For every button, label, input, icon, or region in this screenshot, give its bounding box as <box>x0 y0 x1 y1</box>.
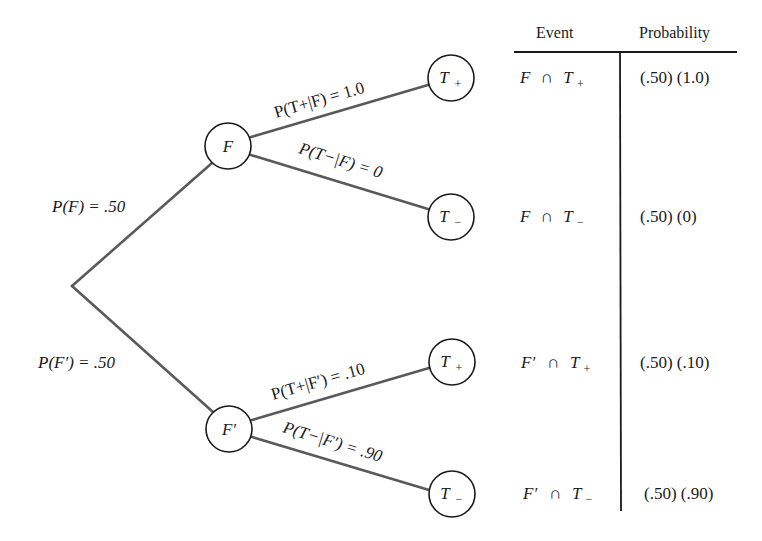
outcome-table: Event Probability F ∩ T + (.50) (1.0) F … <box>514 24 737 511</box>
branch-label-Tminus-given-F: P(T−|F) = 0 <box>296 138 385 182</box>
table-header-event: Event <box>536 24 574 41</box>
table-header-probability: Probability <box>639 24 710 42</box>
svg-text:T: T <box>440 352 451 371</box>
node-Fprime-Tplus: T + <box>429 339 475 385</box>
probability-tree-diagram: F F′ T + T − T + T − P(F) = .50 P(F′) = … <box>0 0 762 541</box>
row-probability: (.50) (.90) <box>644 484 713 503</box>
edge-root-to-Fprime <box>72 286 213 412</box>
branch-label-Tplus-given-Fprime: P(T+|F′) = .10 <box>269 359 367 404</box>
node-Fprime-label: F′ <box>221 420 236 439</box>
node-F-Tminus: T − <box>428 194 474 240</box>
branch-label-Tminus-given-Fprime: P(T−|F′) = .90 <box>280 417 385 466</box>
svg-text:−: − <box>456 492 463 506</box>
svg-text:T: T <box>440 484 451 503</box>
row-probability: (.50) (1.0) <box>640 68 709 87</box>
row-probability: (.50) (.10) <box>640 353 709 372</box>
svg-text:T: T <box>439 207 450 226</box>
node-Fprime-Tminus: T − <box>429 471 475 517</box>
svg-text:T: T <box>439 68 450 87</box>
branch-label-F: P(F) = .50 <box>51 197 126 216</box>
svg-text:−: − <box>455 215 462 229</box>
branch-label-Tplus-given-F: P(T+|F) = 1.0 <box>272 78 367 122</box>
svg-text:F ∩ T: F ∩ T + <box>519 68 584 91</box>
svg-text:F ∩ T: F ∩ T − <box>519 207 584 229</box>
svg-text:F′ ∩ T: F′ ∩ T − <box>522 484 593 506</box>
table-row: F′ ∩ T − (.50) (.90) <box>522 484 713 506</box>
svg-text:F′ ∩ T: F′ ∩ T + <box>520 353 591 376</box>
row-probability: (.50) (0) <box>640 207 697 226</box>
table-row: F′ ∩ T + (.50) (.10) <box>520 353 709 376</box>
svg-text:+: + <box>455 77 462 91</box>
branch-label-Fprime: P(F′) = .50 <box>37 353 116 372</box>
edge-root-to-F <box>72 163 212 286</box>
table-column-divider <box>620 52 621 511</box>
table-row: F ∩ T + (.50) (1.0) <box>519 68 709 91</box>
node-Fprime: F′ <box>206 406 252 452</box>
node-F: F <box>205 123 251 169</box>
node-F-label: F <box>222 137 234 156</box>
table-row: F ∩ T − (.50) (0) <box>519 207 697 229</box>
node-F-Tplus: T + <box>428 55 474 101</box>
svg-text:+: + <box>456 361 463 375</box>
